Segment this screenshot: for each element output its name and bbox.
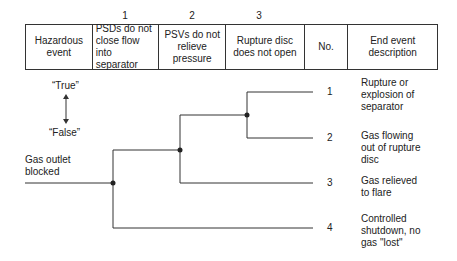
outcome-description-1: Rupture or explosion of separator	[361, 77, 426, 113]
outcome-number-2: 2	[327, 132, 333, 143]
arrow-up-icon	[63, 94, 69, 99]
node-dot-2	[178, 148, 183, 153]
outcome-description-2: Gas flowing out of rupture disc	[361, 130, 429, 166]
outcome-number-3: 3	[327, 177, 333, 188]
arrow-down-icon	[63, 119, 69, 124]
outcome-number-4: 4	[327, 222, 333, 233]
node-dot-3	[245, 113, 250, 118]
legend-false-label: “False”	[49, 127, 80, 139]
node-dot-1	[111, 181, 116, 186]
initiating-event-label: Gas outlet blocked	[25, 154, 85, 178]
outcome-number-1: 1	[327, 86, 333, 97]
legend-true-label: “True”	[52, 80, 79, 92]
outcome-description-3: Gas relieved to flare	[361, 175, 421, 199]
outcome-description-4: Controlled shutdown, no gas "lost"	[361, 213, 421, 249]
